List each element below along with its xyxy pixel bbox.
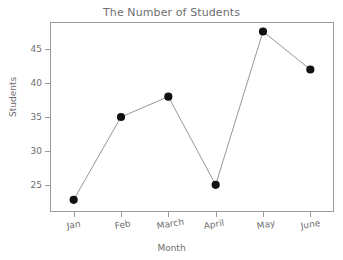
- x-axis-tick-label: April: [203, 218, 225, 231]
- data-markers-group: [70, 27, 315, 203]
- y-axis-tick-mark: [45, 117, 50, 118]
- chart-title: The Number of Students: [0, 6, 343, 19]
- y-axis-tick-mark: [45, 83, 50, 84]
- x-axis-tick-label: Jan: [66, 219, 81, 231]
- y-axis-tick-label: 45: [12, 44, 42, 54]
- plot-canvas: [50, 22, 334, 212]
- x-axis-tick-mark: [74, 212, 75, 217]
- data-point-marker: [259, 27, 267, 35]
- y-axis-label: Students: [8, 77, 18, 117]
- x-axis-tick-mark: [121, 212, 122, 217]
- x-axis-tick-mark: [310, 212, 311, 217]
- chart-figure: The Number of Students 2530354045 JanFeb…: [0, 0, 343, 260]
- x-axis-tick-mark: [168, 212, 169, 217]
- data-point-marker: [164, 93, 172, 101]
- x-axis-label: Month: [0, 243, 343, 253]
- data-point-marker: [70, 196, 78, 204]
- data-point-marker: [212, 181, 220, 189]
- x-axis-tick-label: March: [156, 217, 185, 231]
- data-point-marker: [306, 65, 314, 73]
- x-axis-tick-label: June: [300, 218, 321, 231]
- x-axis-tick-mark: [216, 212, 217, 217]
- y-axis-tick-mark: [45, 151, 50, 152]
- y-axis-tick-mark: [45, 185, 50, 186]
- y-axis-tick-mark: [45, 49, 50, 50]
- x-axis-tick-label: May: [256, 218, 276, 231]
- data-line: [74, 32, 311, 200]
- y-axis-tick-label: 30: [12, 146, 42, 156]
- y-axis-tick-label: 25: [12, 180, 42, 190]
- x-axis-tick-label: Feb: [114, 219, 131, 231]
- data-point-marker: [117, 113, 125, 121]
- x-axis-tick-mark: [263, 212, 264, 217]
